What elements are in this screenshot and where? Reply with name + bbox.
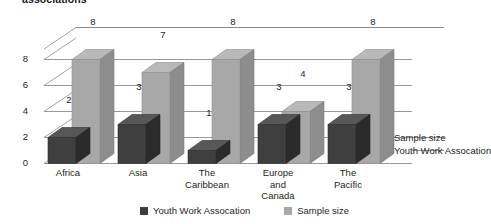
bar-group-africa (48, 50, 114, 164)
bar-asia-youth-work-assocation (118, 115, 160, 164)
value-label-sample-size-africa: 8 (79, 17, 107, 27)
x-axis-label-europe-and-canada: Europe and Canada (248, 167, 308, 202)
bar-the-pacific-youth-work-assocation (328, 115, 370, 164)
legend-swatch-icon-youth-work-assocation (140, 207, 148, 215)
x-axis-label-the-caribbean: The Caribbean (175, 167, 239, 190)
legend-item-sample-size[interactable]: Sample size (284, 205, 349, 216)
legend-label-youth-work-assocation: Youth Work Assocation (153, 205, 250, 216)
x-axis-label-the-pacific: The Pacific (318, 167, 378, 190)
value-label-youth-work-assocation-europe-and-canada: 3 (265, 82, 293, 92)
value-label-sample-size-the-pacific: 8 (359, 17, 387, 27)
depth-line-8 (44, 38, 76, 60)
bar-africa-youth-work-assocation (48, 128, 90, 164)
legend-item-youth-work-assocation[interactable]: Youth Work Assocation (140, 205, 250, 216)
y-axis-tick-2: 2 (14, 132, 28, 142)
chart-legend: Youth Work Assocation Sample size (0, 205, 489, 216)
bar-group-the-caribbean (188, 50, 254, 164)
y-axis-tick-4: 4 (14, 106, 28, 116)
value-label-sample-size-the-caribbean: 8 (219, 17, 247, 27)
bar-group-asia (118, 63, 184, 164)
x-axis-label-asia: Asia (108, 167, 168, 179)
value-label-youth-work-assocation-the-pacific: 3 (335, 82, 363, 92)
value-label-sample-size-asia: 7 (149, 30, 177, 40)
value-label-youth-work-assocation-africa: 2 (55, 95, 83, 105)
depth-axis-label-youth-work-assocation: Youth Work Assocation (394, 145, 491, 156)
depth-axis-label-sample-size: Sample size (394, 132, 446, 143)
y-axis-tick-0: 0 (14, 158, 28, 168)
legend-swatch-icon-sample-size (284, 207, 292, 215)
bar-europe-and-canada-youth-work-assocation (258, 115, 300, 164)
bar-group-europe-and-canada (258, 102, 324, 164)
depth-line-10 (44, 28, 76, 50)
value-label-youth-work-assocation-the-caribbean: 1 (195, 108, 223, 118)
legend-label-sample-size: Sample size (297, 205, 349, 216)
value-label-sample-size-europe-and-canada: 4 (289, 69, 317, 79)
bar-group-the-pacific (328, 50, 394, 164)
depth-line-6 (44, 64, 76, 86)
y-axis-tick-8: 8 (14, 54, 28, 64)
y-axis-tick-6: 6 (14, 80, 28, 90)
value-label-youth-work-assocation-asia: 3 (125, 82, 153, 92)
x-axis-label-africa: Africa (38, 167, 98, 179)
